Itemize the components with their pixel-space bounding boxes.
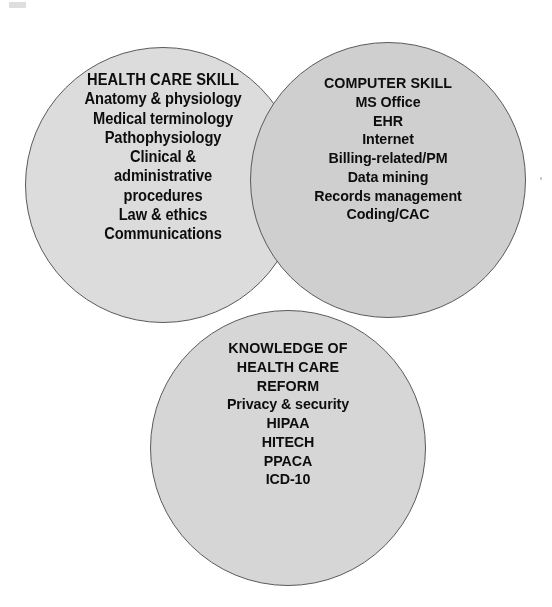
circle-computer-skill-item-4: Billing-related/PM — [259, 149, 517, 168]
circle-knowledge-health-care-reform-text: KNOWLEDGE OF HEALTH CARE REFORM Privacy … — [151, 311, 425, 489]
circle-computer-skill-item-6: Records management — [259, 187, 517, 206]
circle-knowledge-heading-line-3: REFORM — [159, 377, 417, 396]
circle-knowledge-item-1: Privacy & security — [159, 395, 417, 414]
circle-knowledge-heading-line-2: HEALTH CARE — [159, 358, 417, 377]
circle-computer-skill-item-2: EHR — [259, 112, 517, 131]
circle-health-care-skill-item-8: Communications — [34, 224, 292, 243]
circle-computer-skill: COMPUTER SKILL MS Office EHR Internet Bi… — [250, 42, 526, 318]
scan-speck-mark — [540, 177, 542, 180]
circle-knowledge-heading-line-1: KNOWLEDGE OF — [159, 339, 417, 358]
circle-computer-skill-item-5: Data mining — [259, 168, 517, 187]
circle-computer-skill-item-7: Coding/CAC — [259, 205, 517, 224]
circle-knowledge-item-3: HITECH — [159, 433, 417, 452]
circle-computer-skill-item-3: Internet — [259, 130, 517, 149]
circle-computer-skill-heading: COMPUTER SKILL — [259, 74, 517, 93]
circle-knowledge-item-5: ICD-10 — [159, 470, 417, 489]
circle-knowledge-item-4: PPACA — [159, 452, 417, 471]
circle-computer-skill-text: COMPUTER SKILL MS Office EHR Internet Bi… — [251, 43, 525, 224]
circle-knowledge-health-care-reform: KNOWLEDGE OF HEALTH CARE REFORM Privacy … — [150, 310, 426, 586]
circle-knowledge-item-2: HIPAA — [159, 414, 417, 433]
venn-diagram: HEALTH CARE SKILL Anatomy & physiology M… — [0, 0, 552, 607]
circle-computer-skill-item-1: MS Office — [259, 93, 517, 112]
scan-artifact-mark — [9, 2, 26, 8]
